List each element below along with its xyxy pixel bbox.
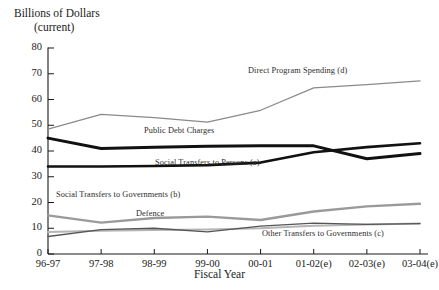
y-tick-label: 30 [18,170,42,181]
y-tick-label: 60 [18,93,42,104]
chart-page: Billions of Dollars (current) 0102030405… [0,0,439,290]
series-label: Social Transfers to Persons (a) [155,158,260,167]
y-tick-label: 70 [18,67,42,78]
line-chart-plot [0,0,439,290]
y-tick-label: 40 [18,144,42,155]
series-label: Other Transfers to Governments (c) [262,229,384,238]
y-tick-label: 20 [18,196,42,207]
y-tick-label: 50 [18,118,42,129]
x-axis-title: Fiscal Year [0,268,439,280]
series-label: Social Transfers to Governments (b) [56,190,180,199]
series-label: Direct Program Spending (d) [248,66,347,75]
series-label: Defence [136,209,164,218]
series-label: Public Debt Charges [144,126,214,135]
y-tick-label: 80 [18,41,42,52]
y-tick-label: 10 [18,221,42,232]
y-tick-label: 0 [18,247,42,258]
